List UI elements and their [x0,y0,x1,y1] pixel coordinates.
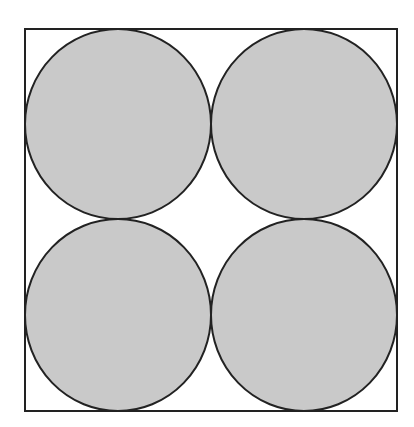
circle-top-right [211,29,397,219]
circle-bottom-right [211,219,397,411]
circles-group [25,29,397,411]
diagram-canvas [0,0,414,427]
circle-bottom-left [25,219,211,411]
circle-top-left [25,29,211,219]
